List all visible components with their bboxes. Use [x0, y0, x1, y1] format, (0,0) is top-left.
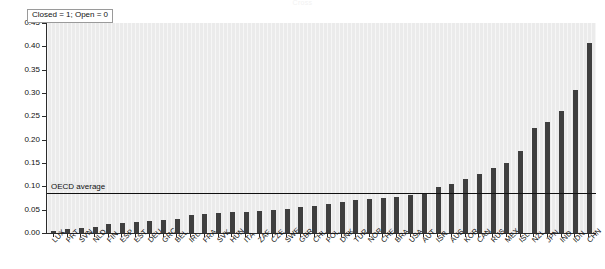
bar: [120, 223, 125, 233]
bar: [559, 111, 564, 233]
y-axis-tick-label: 0.10: [0, 182, 40, 190]
legend-label: Closed = 1; Open = 0: [32, 10, 108, 19]
chart-figure: Cross 0.450.400.350.300.250.200.150.100.…: [0, 0, 605, 269]
bar: [257, 211, 262, 233]
bar: [477, 174, 482, 233]
y-axis-tick-label: 0.40: [0, 42, 40, 50]
bar: [340, 202, 345, 233]
bar: [326, 204, 331, 233]
oecd-average-line: [47, 193, 596, 194]
bar: [436, 187, 441, 233]
y-axis-tick-label: 0.00: [0, 229, 40, 237]
bar: [106, 224, 111, 233]
bar: [79, 228, 84, 233]
bar: [491, 168, 496, 233]
y-axis-tick-label: 0.20: [0, 136, 40, 144]
bar: [545, 122, 550, 233]
bar: [504, 163, 509, 233]
y-axis-tick-label: 0.15: [0, 159, 40, 167]
plot-area: OECD average: [46, 23, 596, 233]
y-axis-tick-label: 0.35: [0, 66, 40, 74]
bar: [394, 197, 399, 233]
bar: [573, 90, 578, 233]
bar: [298, 207, 303, 233]
bar: [381, 198, 386, 233]
y-axis-tick-label: 0.05: [0, 206, 40, 214]
bar: [285, 209, 290, 233]
bar: [189, 215, 194, 233]
bar: [51, 231, 56, 233]
bar: [65, 229, 70, 233]
y-axis-tick-label: 0.25: [0, 112, 40, 120]
bar: [216, 213, 221, 233]
y-axis-tick-label: 0.30: [0, 89, 40, 97]
bar: [422, 193, 427, 233]
bar: [202, 214, 207, 233]
bar: [449, 184, 454, 233]
bar: [271, 210, 276, 233]
bar: [161, 220, 166, 233]
oecd-average-label: OECD average: [49, 182, 107, 191]
bar: [353, 200, 358, 233]
bar: [408, 195, 413, 233]
bar: [587, 43, 592, 233]
bar: [312, 206, 317, 233]
bar: [230, 212, 235, 233]
bar: [244, 212, 249, 233]
bar: [463, 179, 468, 233]
legend-box: Closed = 1; Open = 0: [27, 9, 113, 23]
bar: [367, 199, 372, 233]
bar: [93, 227, 98, 233]
plot-background-grid: [47, 23, 596, 233]
bar: [175, 219, 180, 233]
bar: [147, 221, 152, 233]
bar: [532, 128, 537, 233]
bar: [134, 222, 139, 233]
